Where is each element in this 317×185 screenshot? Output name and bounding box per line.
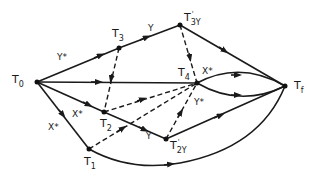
label-t1-main: T [84,155,91,168]
label-t3y-prime: ' [192,10,194,18]
precedence-graph [0,0,317,185]
label-t4-main: T [178,66,185,79]
edge-t0-t2 [37,82,104,112]
edge-label-t4-y: Y* [194,98,204,107]
label-t3y: T'3Y [184,12,201,23]
node-t3 [117,46,122,51]
node-t3y [178,23,183,28]
label-tf-sub: f [301,86,304,95]
label-t0: T0 [12,74,24,85]
edge-t2y-t4-dashed [166,83,197,139]
node-t1 [87,147,92,152]
edge-label-t0-t2: X* [72,110,83,119]
label-t3y-main: T [184,11,191,24]
label-tf: Tf [294,80,304,91]
label-t2y-sub: 2Y [177,146,187,155]
label-t3-main: T [112,27,119,40]
label-t1: T1 [84,156,96,167]
node-t4 [195,81,200,86]
edge-t1-tf [89,86,285,166]
label-t4: T4 [178,67,190,78]
edge-label-t2-t2y: Y [146,132,152,141]
label-t0-main: T [12,73,19,86]
edge-t0-t3 [37,48,119,82]
edge-label-t4-x: X* [202,67,213,76]
label-t2-main: T [100,117,107,130]
label-tf-main: T [294,79,301,92]
label-t2-sub: 2 [107,124,112,133]
edge-label-t3-t3y: Y [148,24,154,33]
label-t3y-sub: 3Y [191,18,201,27]
edge-label-t0-t3: Y* [57,53,67,62]
label-t2y-main: T [170,139,177,152]
label-t3-sub: 3 [119,34,124,43]
node-tf [283,84,288,89]
edge-label-t0-t1: X* [48,123,59,132]
node-t0 [35,80,40,85]
label-t0-sub: 0 [19,80,24,89]
label-t2y-prime: ' [178,138,180,146]
label-t2y: T'2Y [170,140,187,151]
node-t2y [164,137,169,142]
edge-t3-t2-dashed [104,48,119,112]
node-t2 [102,110,107,115]
edge-t3y-tf [180,25,285,86]
label-t1-sub: 1 [91,162,96,171]
label-t3: T3 [112,28,124,39]
edge-t4-tf-lower [197,83,285,96]
edge-t0-t4 [37,82,197,83]
label-t2: T2 [100,118,112,129]
label-t4-sub: 4 [185,73,190,82]
